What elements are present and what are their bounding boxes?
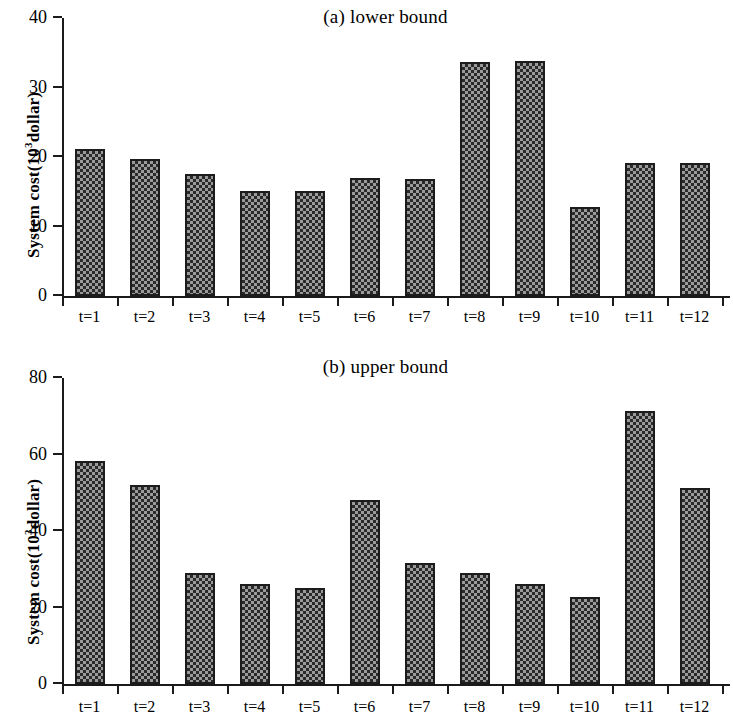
bar-series-upper-bound bbox=[62, 378, 722, 684]
x-tick-lower-bound-10 bbox=[612, 298, 614, 306]
bar-upper-bound-t=3 bbox=[185, 573, 215, 684]
y-tick-lower-bound-10: 10 bbox=[53, 225, 62, 227]
x-axis-label-lower-bound-t=8: t=8 bbox=[464, 308, 485, 326]
y-axis-title-unit: dollar) bbox=[24, 92, 43, 143]
x-axis-label-upper-bound-t=5: t=5 bbox=[299, 698, 320, 715]
bar-upper-bound-t=4 bbox=[240, 584, 270, 684]
x-axis-label-lower-bound-t=4: t=4 bbox=[244, 308, 265, 326]
y-tick-upper-bound-60: 60 bbox=[53, 453, 62, 455]
x-tick-upper-bound-7 bbox=[447, 686, 449, 694]
y-tick-lower-bound-0: 0 bbox=[53, 294, 62, 296]
x-tick-lower-bound-6 bbox=[392, 298, 394, 306]
x-axis-label-lower-bound-t=5: t=5 bbox=[299, 308, 320, 326]
x-tick-lower-bound-7 bbox=[447, 298, 449, 306]
bar-lower-bound-t=7 bbox=[405, 179, 435, 296]
x-axis-label-lower-bound-t=9: t=9 bbox=[519, 308, 540, 326]
x-tick-lower-bound-9 bbox=[557, 298, 559, 306]
figure-system-cost: (a) lower bound System cost(103dollar) 0… bbox=[0, 0, 733, 715]
y-axis-title-text: System cost(10 bbox=[24, 535, 43, 645]
x-tick-upper-bound-8 bbox=[502, 686, 504, 694]
x-tick-lower-bound-4 bbox=[282, 298, 284, 306]
chart-panel-lower-bound: (a) lower bound System cost(103dollar) 0… bbox=[0, 0, 733, 348]
x-axis-label-lower-bound-t=6: t=6 bbox=[354, 308, 375, 326]
x-tick-lower-bound-12 bbox=[722, 298, 724, 306]
bar-upper-bound-t=5 bbox=[295, 588, 325, 684]
y-tick-label-lower-bound-0: 0 bbox=[38, 285, 47, 306]
x-axis-line-upper-bound bbox=[62, 684, 730, 686]
y-tick-label-upper-bound-40: 40 bbox=[29, 520, 47, 541]
x-tick-upper-bound-6 bbox=[392, 686, 394, 694]
x-axis-label-upper-bound-t=9: t=9 bbox=[519, 698, 540, 715]
x-axis-label-lower-bound-t=3: t=3 bbox=[189, 308, 210, 326]
plot-area-lower-bound: 010203040 bbox=[62, 18, 722, 298]
x-axis-label-lower-bound-t=11: t=11 bbox=[625, 308, 654, 326]
y-tick-upper-bound-80: 80 bbox=[53, 376, 62, 378]
x-axis-label-upper-bound-t=11: t=11 bbox=[625, 698, 654, 715]
x-tick-upper-bound-0 bbox=[62, 686, 64, 694]
x-tick-upper-bound-11 bbox=[667, 686, 669, 694]
y-tick-upper-bound-40: 40 bbox=[53, 529, 62, 531]
bar-lower-bound-t=10 bbox=[570, 207, 600, 296]
bar-upper-bound-t=11 bbox=[625, 411, 655, 684]
bar-upper-bound-t=9 bbox=[515, 584, 545, 684]
x-axis-label-upper-bound-t=1: t=1 bbox=[79, 698, 100, 715]
x-axis-label-lower-bound-t=12: t=12 bbox=[680, 308, 709, 326]
x-tick-lower-bound-1 bbox=[117, 298, 119, 306]
x-axis-label-upper-bound-t=8: t=8 bbox=[464, 698, 485, 715]
bar-upper-bound-t=7 bbox=[405, 563, 435, 684]
y-tick-lower-bound-20: 20 bbox=[53, 155, 62, 157]
x-axis-label-upper-bound-t=7: t=7 bbox=[409, 698, 430, 715]
x-tick-lower-bound-3 bbox=[227, 298, 229, 306]
x-tick-upper-bound-10 bbox=[612, 686, 614, 694]
bar-upper-bound-t=1 bbox=[75, 461, 105, 684]
x-tick-upper-bound-2 bbox=[172, 686, 174, 694]
y-tick-lower-bound-40: 40 bbox=[53, 16, 62, 18]
bar-lower-bound-t=1 bbox=[75, 149, 105, 296]
x-axis-label-lower-bound-t=10: t=10 bbox=[570, 308, 599, 326]
x-tick-upper-bound-4 bbox=[282, 686, 284, 694]
y-tick-label-upper-bound-60: 60 bbox=[29, 443, 47, 464]
bar-lower-bound-t=5 bbox=[295, 191, 325, 296]
y-tick-label-lower-bound-10: 10 bbox=[29, 215, 47, 236]
y-tick-upper-bound-0: 0 bbox=[53, 682, 62, 684]
bar-lower-bound-t=2 bbox=[130, 159, 160, 296]
bar-lower-bound-t=9 bbox=[515, 61, 545, 296]
bar-upper-bound-t=2 bbox=[130, 485, 160, 684]
x-axis-label-lower-bound-t=7: t=7 bbox=[409, 308, 430, 326]
x-tick-upper-bound-9 bbox=[557, 686, 559, 694]
x-tick-upper-bound-1 bbox=[117, 686, 119, 694]
y-tick-label-lower-bound-30: 30 bbox=[29, 76, 47, 97]
x-tick-lower-bound-5 bbox=[337, 298, 339, 306]
x-axis-label-upper-bound-t=6: t=6 bbox=[354, 698, 375, 715]
y-tick-lower-bound-30: 30 bbox=[53, 86, 62, 88]
x-tick-lower-bound-2 bbox=[172, 298, 174, 306]
bar-upper-bound-t=12 bbox=[680, 488, 710, 684]
x-axis-label-lower-bound-t=2: t=2 bbox=[134, 308, 155, 326]
y-tick-label-upper-bound-80: 80 bbox=[29, 367, 47, 388]
y-tick-label-upper-bound-0: 0 bbox=[38, 673, 47, 694]
y-tick-label-upper-bound-20: 20 bbox=[29, 596, 47, 617]
chart-title-upper-bound: (b) upper bound bbox=[0, 356, 733, 378]
plot-area-upper-bound: 020406080 bbox=[62, 378, 722, 686]
x-axis-label-upper-bound-t=4: t=4 bbox=[244, 698, 265, 715]
x-tick-lower-bound-0 bbox=[62, 298, 64, 306]
bar-upper-bound-t=8 bbox=[460, 573, 490, 684]
bar-lower-bound-t=12 bbox=[680, 163, 710, 296]
bar-upper-bound-t=10 bbox=[570, 597, 600, 684]
x-axis-label-upper-bound-t=3: t=3 bbox=[189, 698, 210, 715]
x-axis-label-upper-bound-t=12: t=12 bbox=[680, 698, 709, 715]
y-axis-title-upper-bound: System cost(103dollar) bbox=[22, 479, 44, 645]
bar-series-lower-bound bbox=[62, 18, 722, 296]
bar-lower-bound-t=8 bbox=[460, 62, 490, 296]
x-tick-upper-bound-5 bbox=[337, 686, 339, 694]
y-tick-label-lower-bound-40: 40 bbox=[29, 7, 47, 28]
x-tick-lower-bound-8 bbox=[502, 298, 504, 306]
bar-lower-bound-t=4 bbox=[240, 191, 270, 296]
chart-panel-upper-bound: (b) upper bound System cost(103dollar) 0… bbox=[0, 348, 733, 715]
bar-lower-bound-t=11 bbox=[625, 163, 655, 296]
bar-lower-bound-t=6 bbox=[350, 178, 380, 296]
x-axis-label-lower-bound-t=1: t=1 bbox=[79, 308, 100, 326]
y-tick-label-lower-bound-20: 20 bbox=[29, 146, 47, 167]
x-axis-label-upper-bound-t=2: t=2 bbox=[134, 698, 155, 715]
y-tick-upper-bound-20: 20 bbox=[53, 606, 62, 608]
